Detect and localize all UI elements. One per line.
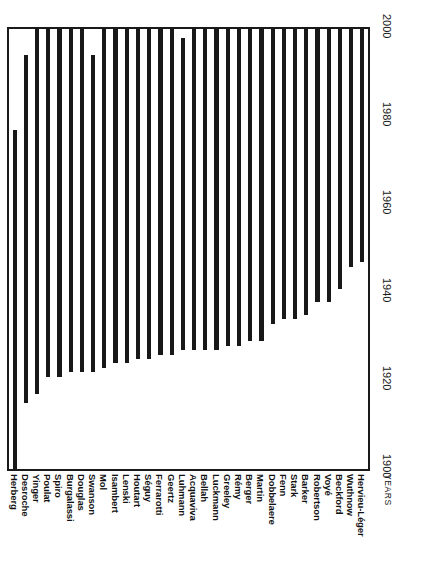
- bar: [271, 29, 275, 324]
- bar: [80, 29, 84, 372]
- bar: [259, 29, 263, 341]
- category-label: Luhmann: [177, 474, 187, 516]
- category-label: Beckford: [334, 474, 344, 514]
- bar: [91, 55, 95, 372]
- bar: [192, 29, 196, 350]
- category-label: Burgalassi: [65, 474, 75, 522]
- bar: [203, 29, 207, 350]
- plot-frame: [7, 27, 370, 471]
- category-label: Barker: [301, 474, 311, 504]
- year-tick-label: 1940: [381, 278, 392, 302]
- category-label: Wuthnow: [346, 474, 356, 516]
- bar: [360, 29, 364, 262]
- bar: [113, 29, 117, 363]
- bar: [293, 29, 297, 319]
- category-label: Yinger: [32, 474, 42, 503]
- bar: [158, 29, 162, 355]
- bar: [147, 29, 151, 359]
- bar: [69, 29, 73, 372]
- category-label: Lenski: [121, 474, 131, 504]
- category-label: Dobbelaere: [267, 474, 277, 525]
- bar: [125, 29, 129, 363]
- year-tick-label: 1980: [381, 102, 392, 126]
- bar: [136, 29, 140, 359]
- bar: [349, 29, 353, 267]
- category-label: Berger: [245, 474, 255, 504]
- category-label: Bellah: [200, 474, 210, 502]
- bar: [181, 38, 185, 350]
- bar: [226, 29, 230, 346]
- category-label: Herberg: [9, 474, 19, 510]
- category-label: Swanson: [88, 474, 98, 515]
- bar: [24, 55, 28, 403]
- bar: [315, 29, 319, 302]
- bar: [338, 29, 342, 289]
- category-label: Poulat: [43, 474, 53, 502]
- chart-figure: HerbergDesrocheYingerPoulatSpiroBurgalas…: [0, 0, 428, 585]
- category-label: Robertson: [312, 474, 322, 521]
- category-label: Hervieu-Léger: [357, 474, 367, 537]
- bar: [327, 29, 331, 302]
- category-label: Spiro: [54, 474, 64, 498]
- bar: [237, 29, 241, 346]
- plot-area: [9, 29, 368, 469]
- category-label: Desroche: [20, 474, 30, 517]
- category-label: Luckmann: [211, 474, 221, 521]
- category-label: Mol: [99, 474, 109, 490]
- year-axis: 190019201940196019802000: [370, 27, 428, 471]
- category-label: Geertz: [166, 474, 176, 503]
- bar: [304, 29, 308, 315]
- bar: [248, 29, 252, 341]
- year-tick-label: 2000: [381, 14, 392, 38]
- bar: [214, 29, 218, 350]
- category-label: Douglas: [76, 474, 86, 511]
- bar: [282, 29, 286, 319]
- category-label: Greeley: [222, 474, 232, 508]
- axis-title: YEARS: [384, 474, 393, 506]
- category-label: Acquaviva: [189, 474, 199, 521]
- category-axis-labels: HerbergDesrocheYingerPoulatSpiroBurgalas…: [7, 474, 370, 585]
- category-label: Houtart: [133, 474, 143, 507]
- category-label: Voyé: [323, 474, 333, 496]
- category-label: Rémy: [233, 474, 243, 499]
- category-label: Séguy: [144, 474, 154, 502]
- bar: [35, 29, 39, 394]
- category-label: Martin: [256, 474, 266, 502]
- bar: [57, 29, 61, 377]
- bar: [46, 29, 50, 377]
- category-label: Fenn: [278, 474, 288, 496]
- year-tick-label: 1920: [381, 366, 392, 390]
- bar: [170, 29, 174, 355]
- bar: [102, 29, 106, 368]
- category-label: Isambert: [110, 474, 120, 513]
- category-label: Ferrarotti: [155, 474, 165, 515]
- category-label: Stark: [290, 474, 300, 497]
- year-tick-label: 1960: [381, 190, 392, 214]
- bar: [13, 130, 17, 469]
